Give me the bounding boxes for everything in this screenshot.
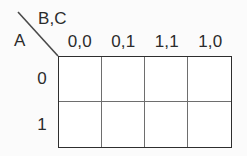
kmap-cell-r1c2[interactable] xyxy=(145,102,188,147)
row-header-1: 1 xyxy=(30,102,54,148)
column-header-0: 0,0 xyxy=(58,32,102,54)
row-header-0: 0 xyxy=(30,56,54,102)
kmap-cell-r0c2[interactable] xyxy=(145,57,188,102)
column-variable-label: B,C xyxy=(38,9,67,28)
kmap-cell-r0c3[interactable] xyxy=(188,57,231,102)
kmap-cell-r0c0[interactable] xyxy=(59,57,102,102)
row-variable-label: A xyxy=(14,31,25,50)
column-header-row: 0,0 0,1 1,1 1,0 xyxy=(58,32,232,54)
column-header-3: 1,0 xyxy=(189,32,233,54)
kmap-cell-r1c3[interactable] xyxy=(188,102,231,147)
kmap-cell-r1c0[interactable] xyxy=(59,102,102,147)
column-header-2: 1,1 xyxy=(145,32,189,54)
kmap-cell-r0c1[interactable] xyxy=(102,57,145,102)
karnaugh-map-diagram: B,C A 0,0 0,1 1,1 1,0 0 1 xyxy=(0,0,247,156)
kmap-grid xyxy=(58,56,232,148)
kmap-cell-r1c1[interactable] xyxy=(102,102,145,147)
row-header-column: 0 1 xyxy=(30,56,54,148)
column-header-1: 0,1 xyxy=(102,32,146,54)
